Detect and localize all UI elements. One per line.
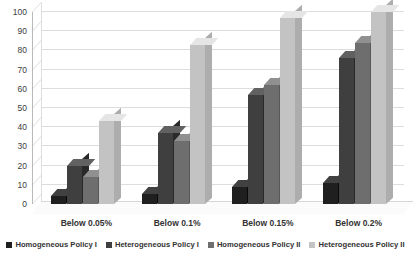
bar-top <box>158 126 186 133</box>
bar <box>83 177 98 204</box>
bar-group <box>41 12 132 204</box>
bar-face <box>339 58 354 204</box>
bar <box>264 85 279 204</box>
bar <box>355 43 370 204</box>
bar <box>248 95 263 204</box>
bar-side <box>205 31 212 204</box>
legend-label: Homogeneous Policy I <box>15 241 96 249</box>
bar-group <box>313 12 404 204</box>
bar-side <box>295 4 302 204</box>
bar-face <box>190 45 205 204</box>
legend-label: Heterogeneous Policy I <box>115 241 199 249</box>
y-axis-tick-80: 80 <box>18 47 27 56</box>
bar <box>323 183 338 204</box>
legend: Homogeneous Policy IHeterogeneous Policy… <box>0 241 411 249</box>
y-axis-tick-50: 50 <box>18 104 27 113</box>
y-axis-tick-100: 100 <box>13 8 27 17</box>
bar-side <box>114 108 121 204</box>
x-axis-labels: Below 0.05%Below 0.1%Below 0.15%Below 0.… <box>41 219 404 233</box>
x-axis-label-2: Below 0.1% <box>154 219 201 228</box>
bar-face <box>264 85 279 204</box>
y-axis-tick-0: 0 <box>22 200 27 209</box>
bar <box>339 58 354 204</box>
y-axis-line <box>32 12 33 204</box>
bar <box>142 194 157 204</box>
x-axis-label-3: Below 0.15% <box>242 219 294 228</box>
legend-swatch-icon <box>106 242 112 248</box>
legend-item-3[interactable]: Homogeneous Policy II <box>208 241 301 249</box>
bar-face <box>232 187 247 204</box>
bar-face <box>355 43 370 204</box>
legend-item-4[interactable]: Heterogeneous Policy II <box>309 241 404 249</box>
bar-group <box>132 12 223 204</box>
bar-top <box>190 38 218 45</box>
legend-label: Homogeneous Policy II <box>217 241 301 249</box>
bar-face <box>99 121 114 204</box>
bar <box>67 166 82 204</box>
bar <box>371 12 386 204</box>
y-axis-tick-90: 90 <box>18 27 27 36</box>
bar <box>280 18 295 204</box>
bar <box>232 187 247 204</box>
bar-side <box>386 0 393 204</box>
bar-face <box>142 194 157 204</box>
bar-group <box>223 12 314 204</box>
bar-face <box>158 133 173 204</box>
bar-face <box>83 177 98 204</box>
legend-item-1[interactable]: Homogeneous Policy I <box>6 241 96 249</box>
bar-face <box>67 166 82 204</box>
bar <box>99 121 114 204</box>
y-axis-tick-10: 10 <box>18 181 27 190</box>
bar-top <box>99 114 127 121</box>
bar-face <box>323 183 338 204</box>
y-axis-tick-70: 70 <box>18 66 27 75</box>
y-axis-tick-20: 20 <box>18 162 27 171</box>
bar <box>51 196 66 204</box>
legend-item-2[interactable]: Heterogeneous Policy I <box>106 241 199 249</box>
bar-face <box>174 141 189 204</box>
legend-swatch-icon <box>208 242 214 248</box>
bar-face <box>280 18 295 204</box>
bar-face <box>371 12 386 204</box>
bar-top <box>280 11 308 18</box>
legend-swatch-icon <box>309 242 315 248</box>
bars-layer <box>41 12 404 204</box>
bar-top <box>67 159 95 166</box>
plot-area: 0102030405060708090100 <box>32 12 404 214</box>
legend-swatch-icon <box>6 242 12 248</box>
y-axis-tick-40: 40 <box>18 123 27 132</box>
x-axis-label-4: Below 0.2% <box>335 219 382 228</box>
bar <box>174 141 189 204</box>
y-axis-tick-60: 60 <box>18 85 27 94</box>
bar <box>158 133 173 204</box>
bar-face <box>51 196 66 204</box>
y-axis-tick-30: 30 <box>18 143 27 152</box>
bar-face <box>248 95 263 204</box>
legend-label: Heterogeneous Policy II <box>318 241 404 249</box>
bar <box>190 45 205 204</box>
x-axis-label-1: Below 0.05% <box>61 219 113 228</box>
